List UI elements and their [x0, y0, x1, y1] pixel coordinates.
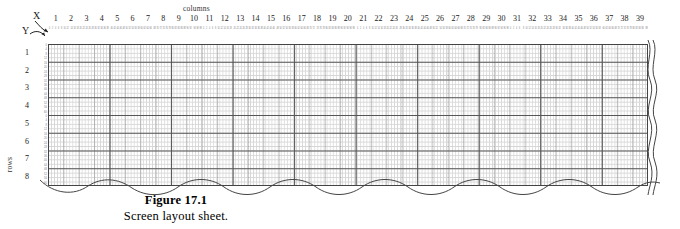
column-subtick-group: 2022242628 [540, 27, 555, 39]
column-subtick-group: 5052545658 [586, 27, 601, 39]
column-subtick: 72 [159, 27, 161, 39]
column-number: 2 [63, 14, 78, 24]
column-subtick: 42 [574, 27, 576, 39]
column-number: 9 [171, 14, 186, 24]
column-header-14: 143032343638 [248, 14, 263, 44]
column-subtick-group: 5052545658 [279, 27, 294, 39]
column-subtick: 6 [365, 27, 367, 39]
column-number: 34 [555, 14, 570, 24]
column-number: 18 [309, 14, 324, 24]
column-subtick: 54 [439, 27, 441, 39]
column-subtick: 32 [405, 27, 407, 39]
column-subtick: 92 [190, 27, 192, 39]
column-subtick: 54 [285, 27, 287, 39]
column-subtick: 80 [325, 27, 327, 39]
column-subtick-group: 9092949698 [494, 27, 509, 39]
column-subtick: 72 [313, 27, 315, 39]
row-header-5: 504812 [20, 115, 48, 133]
column-subtick: 86 [488, 27, 490, 39]
column-subtick: 66 [150, 27, 152, 39]
column-header-18: 187072747678 [309, 14, 324, 44]
column-number: 13 [233, 14, 248, 24]
column-subtick: 12 [67, 27, 69, 39]
column-number: 35 [571, 14, 586, 24]
column-subtick: 50 [125, 27, 127, 39]
column-subtick-group: 02468 [356, 27, 371, 39]
column-subtick: 20 [79, 27, 81, 39]
column-header-8: 87072747678 [156, 14, 171, 44]
column-header-21: 2102468 [356, 14, 371, 44]
grid-border [48, 44, 648, 186]
column-number: 33 [540, 14, 555, 24]
figure-number: Figure 17.1 [26, 193, 326, 208]
column-number: 22 [371, 14, 386, 24]
column-number: 14 [248, 14, 263, 24]
column-number: 25 [417, 14, 432, 24]
column-subtick-group: 6062646668 [602, 27, 617, 39]
column-number: 38 [617, 14, 632, 24]
column-number: 20 [340, 14, 355, 24]
column-subtick-group: 02468 [48, 27, 63, 39]
column-subtick: 60 [602, 27, 604, 39]
column-header-1: 102468 [48, 14, 63, 44]
column-header-35: 354042444648 [571, 14, 586, 44]
column-subtick: 80 [479, 27, 481, 39]
column-header-27: 276062646668 [448, 14, 463, 44]
column-number: 31 [509, 14, 524, 24]
column-subtick: 66 [611, 27, 613, 39]
column-header-33: 332022242628 [540, 14, 555, 44]
column-header-26: 265052545658 [432, 14, 447, 44]
column-subtick: 16 [534, 27, 536, 39]
column-subtick: 88 [645, 27, 647, 39]
column-header-25: 254042444648 [417, 14, 432, 44]
column-subtick-group: 1012141618 [217, 27, 232, 39]
row-header-1: 104812 [20, 44, 48, 62]
column-subtick: 22 [82, 27, 84, 39]
column-number: 23 [386, 14, 401, 24]
column-header-30: 309092949698 [494, 14, 509, 44]
column-number: 36 [586, 14, 601, 24]
column-subtick-group: 8082848688 [171, 27, 186, 39]
column-subtick: 10 [371, 27, 373, 39]
row-number: 7 [20, 154, 34, 164]
column-header-31: 3102468 [509, 14, 524, 44]
column-subtick: 46 [273, 27, 275, 39]
column-number: 7 [140, 14, 155, 24]
column-subtick: 14 [70, 27, 72, 39]
row-header-2: 216202428 [20, 62, 48, 80]
column-subtick-group: 1012141618 [525, 27, 540, 39]
column-number: 39 [632, 14, 647, 24]
column-subtick: 94 [193, 27, 195, 39]
column-number: 29 [479, 14, 494, 24]
column-header-16: 165052545658 [279, 14, 294, 44]
column-subtick: 0 [356, 27, 358, 39]
column-subtick: 34 [408, 27, 410, 39]
column-subtick-group: 3032343638 [402, 27, 417, 39]
column-header-11: 1102468 [202, 14, 217, 44]
column-subtick: 62 [451, 27, 453, 39]
column-subtick: 42 [113, 27, 115, 39]
column-number: 8 [156, 14, 171, 24]
column-header-24: 243032343638 [402, 14, 417, 44]
column-subtick: 30 [402, 27, 404, 39]
column-subtick: 46 [119, 27, 121, 39]
column-subtick-group: 2022242628 [79, 27, 94, 39]
column-number: 16 [279, 14, 294, 24]
column-subtick: 0 [202, 27, 204, 39]
column-number: 1 [48, 14, 63, 24]
column-subtick: 40 [571, 27, 573, 39]
column-subtick: 64 [608, 27, 610, 39]
column-subtick-group: 7072747678 [463, 27, 478, 39]
column-subtick: 44 [577, 27, 579, 39]
column-number: 11 [202, 14, 217, 24]
column-subtick: 52 [282, 27, 284, 39]
column-subtick-group: 02468 [202, 27, 217, 39]
column-subtick: 76 [165, 27, 167, 39]
column-subtick-group: 8082848688 [632, 27, 647, 39]
column-number: 28 [463, 14, 478, 24]
column-subtick-group: 3032343638 [248, 27, 263, 39]
column-subtick: 24 [239, 27, 241, 39]
column-subtick-group: 8082848688 [479, 27, 494, 39]
column-number: 27 [448, 14, 463, 24]
column-subtick: 14 [531, 27, 533, 39]
